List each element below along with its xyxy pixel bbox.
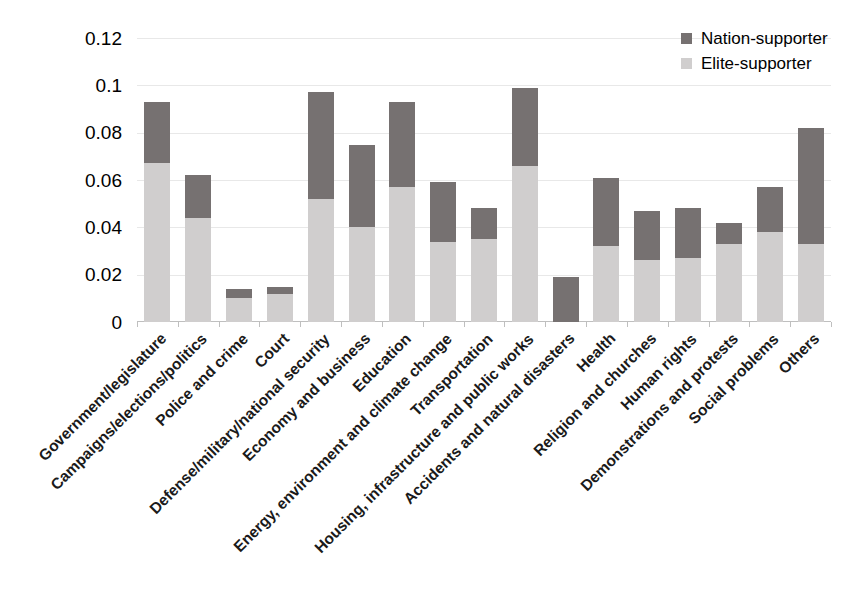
bar-group[interactable] — [512, 88, 538, 322]
legend-swatch-icon — [681, 58, 692, 69]
legend-swatch-icon — [681, 33, 692, 44]
bar-group[interactable] — [308, 92, 334, 322]
bar-segment-nation-supporter[interactable] — [716, 223, 742, 244]
x-axis-tick — [749, 322, 750, 327]
x-axis-tick — [300, 322, 301, 327]
bar-segment-nation-supporter[interactable] — [185, 175, 211, 218]
bar-group[interactable] — [267, 287, 293, 323]
bar-segment-elite-supporter[interactable] — [185, 218, 211, 322]
x-axis-tick — [709, 322, 710, 327]
x-axis-tick — [423, 322, 424, 327]
bar-segment-elite-supporter[interactable] — [144, 163, 170, 322]
bar-segment-nation-supporter[interactable] — [757, 187, 783, 232]
plot-area — [137, 38, 831, 322]
bar-segment-elite-supporter[interactable] — [593, 246, 619, 322]
bar-segment-nation-supporter[interactable] — [144, 102, 170, 164]
bar-group[interactable] — [471, 208, 497, 322]
bar-segment-nation-supporter[interactable] — [349, 145, 375, 228]
bar-segment-elite-supporter[interactable] — [512, 166, 538, 322]
bar-segment-nation-supporter[interactable] — [798, 128, 824, 244]
bar-group[interactable] — [757, 187, 783, 322]
y-tick-label: 0 — [0, 313, 122, 332]
bar-segment-nation-supporter[interactable] — [553, 277, 579, 322]
bar-group[interactable] — [226, 289, 252, 322]
bar-segment-nation-supporter[interactable] — [634, 211, 660, 261]
bar-segment-elite-supporter[interactable] — [430, 242, 456, 322]
x-axis-tick — [464, 322, 465, 327]
x-axis-tick — [341, 322, 342, 327]
y-tick-label: 0.1 — [0, 76, 122, 95]
bar-segment-elite-supporter[interactable] — [757, 232, 783, 322]
bar-group[interactable] — [716, 223, 742, 322]
bar-segment-nation-supporter[interactable] — [308, 92, 334, 199]
legend-item-nation-supporter: Nation-supporter — [681, 26, 828, 51]
bar-segment-nation-supporter[interactable] — [471, 208, 497, 239]
y-tick-label: 0.02 — [0, 265, 122, 284]
bar-segment-elite-supporter[interactable] — [716, 244, 742, 322]
legend-item-elite-supporter: Elite-supporter — [681, 51, 828, 76]
bar-segment-elite-supporter[interactable] — [389, 187, 415, 322]
bar-segment-elite-supporter[interactable] — [226, 298, 252, 322]
bar-group[interactable] — [593, 178, 619, 322]
bar-group[interactable] — [389, 102, 415, 322]
y-tick-label: 0.08 — [0, 123, 122, 142]
bar-group[interactable] — [430, 182, 456, 322]
bar-group[interactable] — [675, 208, 701, 322]
bar-group[interactable] — [634, 211, 660, 322]
bar-group[interactable] — [349, 145, 375, 323]
bar-segment-nation-supporter[interactable] — [430, 182, 456, 241]
x-axis-tick — [382, 322, 383, 327]
y-tick-label: 0.04 — [0, 218, 122, 237]
bar-segment-nation-supporter[interactable] — [675, 208, 701, 258]
bar-segment-nation-supporter[interactable] — [226, 289, 252, 298]
bar-segment-nation-supporter[interactable] — [389, 102, 415, 187]
bar-segment-nation-supporter[interactable] — [593, 178, 619, 247]
x-axis-category-label: Others — [775, 330, 823, 378]
bar-segment-elite-supporter[interactable] — [308, 199, 334, 322]
bar-segment-elite-supporter[interactable] — [675, 258, 701, 322]
bar-segment-elite-supporter[interactable] — [267, 294, 293, 322]
x-axis-tick — [586, 322, 587, 327]
bar-segment-elite-supporter[interactable] — [349, 227, 375, 322]
x-axis-tick — [259, 322, 260, 327]
bar-group[interactable] — [553, 277, 579, 322]
x-axis-tick — [178, 322, 179, 327]
x-axis-tick — [219, 322, 220, 327]
bar-segment-elite-supporter[interactable] — [471, 239, 497, 322]
bar-series-layer — [137, 38, 831, 322]
bar-group[interactable] — [798, 128, 824, 322]
bar-segment-elite-supporter[interactable] — [634, 260, 660, 322]
y-tick-label: 0.06 — [0, 171, 122, 190]
bar-segment-nation-supporter[interactable] — [267, 287, 293, 294]
x-axis-tick — [627, 322, 628, 327]
legend-label: Nation-supporter — [701, 26, 828, 51]
bar-group[interactable] — [144, 102, 170, 322]
stacked-bar-chart: 0.12 0.1 0.08 0.06 0.04 0.02 0 Nation-su… — [0, 0, 867, 613]
bar-group[interactable] — [185, 175, 211, 322]
bar-segment-nation-supporter[interactable] — [512, 88, 538, 166]
x-axis-tick — [831, 322, 832, 327]
y-axis-labels: 0.12 0.1 0.08 0.06 0.04 0.02 0 — [0, 0, 131, 613]
legend-label: Elite-supporter — [701, 51, 812, 76]
x-axis-tick — [504, 322, 505, 327]
x-axis-tick — [790, 322, 791, 327]
x-axis-tick — [137, 322, 138, 327]
legend: Nation-supporter Elite-supporter — [681, 26, 828, 76]
bar-segment-elite-supporter[interactable] — [798, 244, 824, 322]
x-axis-tick — [545, 322, 546, 327]
y-tick-label: 0.12 — [0, 29, 122, 48]
x-axis-tick — [668, 322, 669, 327]
